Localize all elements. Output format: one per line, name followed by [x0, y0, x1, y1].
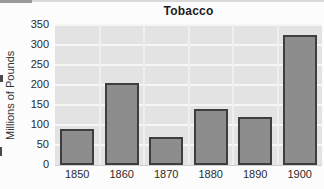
- gridline-v-5: [277, 25, 279, 165]
- bar-1850: [60, 129, 94, 165]
- bar-1890: [238, 117, 272, 165]
- gridline-v-4: [232, 25, 234, 165]
- gridline-v-2: [143, 25, 145, 165]
- x-tick-label-1900: 1900: [278, 168, 323, 183]
- bar-1860: [105, 83, 139, 165]
- tobacco-bar-chart: Tobacco Millions of Pounds 0501001502002…: [0, 0, 324, 189]
- y-tick-label-350: 350: [18, 18, 49, 31]
- x-tick-label-1880: 1880: [189, 168, 234, 183]
- y-axis-label: Millions of Pounds: [2, 25, 18, 165]
- x-tick-label-1890: 1890: [233, 168, 278, 183]
- bar-1900: [283, 35, 317, 165]
- y-tick-label-50: 50: [18, 138, 49, 151]
- gridline-v-1: [99, 25, 101, 165]
- y-axis-ticks: 050100150200250300350: [18, 25, 52, 165]
- y-tick-label-0: 0: [18, 158, 49, 171]
- scan-artifact-top-strip: [0, 0, 324, 2]
- x-tick-label-1850: 1850: [55, 168, 100, 183]
- x-tick-label-1860: 1860: [100, 168, 145, 183]
- y-tick-label-200: 200: [18, 78, 49, 91]
- y-tick-label-300: 300: [18, 38, 49, 51]
- scan-artifact-top-left-mark: [0, 0, 32, 3]
- y-tick-label-250: 250: [18, 58, 49, 71]
- gridline-v-3: [188, 25, 190, 165]
- y-tick-label-100: 100: [18, 118, 49, 131]
- x-axis-ticks: 185018601870188018901900: [55, 168, 322, 183]
- chart-title: Tobacco: [55, 4, 322, 18]
- x-tick-label-1870: 1870: [144, 168, 189, 183]
- bar-1880: [194, 109, 228, 165]
- y-tick-label-150: 150: [18, 98, 49, 111]
- plot-area: [55, 25, 322, 166]
- bar-1870: [149, 137, 183, 165]
